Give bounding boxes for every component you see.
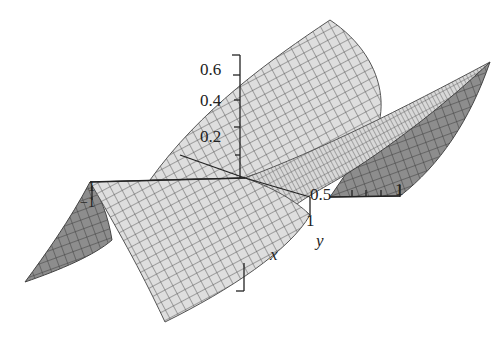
z-tick-0.2: 0.2 — [200, 128, 221, 145]
surface-plot — [0, 0, 491, 344]
y-tick-1: 1 — [306, 212, 315, 229]
corner-label-1: 1 — [88, 180, 95, 194]
z-tick-0.4: 0.4 — [200, 92, 221, 109]
x-tick-1: 1 — [395, 181, 404, 198]
z-tick-0.6: 0.6 — [200, 61, 221, 78]
corner-label-neg1: −1 — [80, 196, 95, 210]
x-axis-label: x — [270, 246, 278, 263]
y-tick-0.5: 0.5 — [310, 186, 331, 203]
y-axis-label: y — [316, 232, 324, 249]
